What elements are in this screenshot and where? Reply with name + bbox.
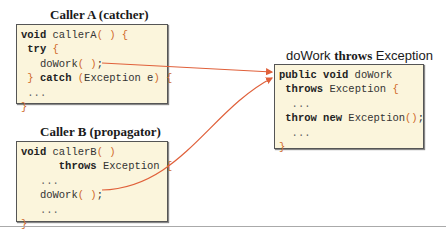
bottom-divider xyxy=(0,226,446,227)
arrow-caller-a-to-dowork xyxy=(102,63,272,72)
arrow-caller-b-to-dowork xyxy=(102,78,272,190)
call-arrows xyxy=(0,0,446,236)
